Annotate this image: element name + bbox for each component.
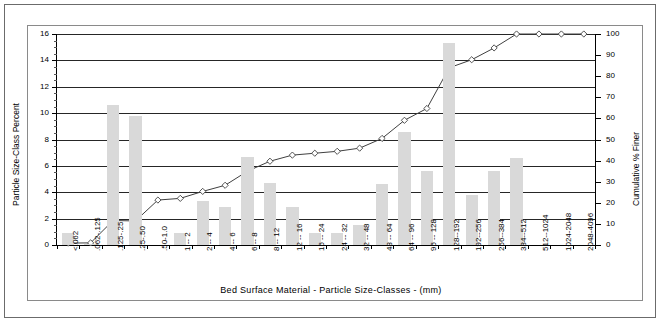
x-axis-tick-label: 24 -- 32: [341, 223, 349, 251]
x-axis-tick-label: .50-1.0: [161, 226, 169, 251]
x-axis-tick-label: 8 -- 12: [273, 228, 281, 251]
y-axis-left-minor-tick: [54, 47, 57, 48]
y-axis-left-tick: [52, 87, 57, 88]
x-axis-tick-label: 1024-2048: [565, 213, 573, 251]
y-axis-right-tick-label: 50: [606, 136, 632, 144]
y-axis-left-tick-label: 0: [23, 241, 49, 249]
y-axis-left-tick-label: 14: [23, 56, 49, 64]
y-axis-right-tick-label: 30: [606, 178, 632, 186]
x-axis-tick-label: 512--1024: [542, 215, 550, 251]
y-axis-left-tick-label: 2: [23, 215, 49, 223]
y-axis-right-tick: [596, 140, 601, 141]
y-axis-left-minor-tick: [54, 186, 57, 187]
x-axis-tick-label: 2048-4096: [587, 213, 595, 251]
x-axis-title-text: Bed Surface Material - Particle Size-Cla…: [220, 285, 441, 295]
x-axis-tick-label: 1 -- 2: [184, 232, 192, 251]
bar: [443, 43, 455, 245]
y-axis-right-tick-label: 40: [606, 157, 632, 165]
y-axis-left-minor-tick: [54, 146, 57, 147]
y-axis-left-title-text: Particle Size-Class Percent: [11, 194, 22, 206]
x-axis-tick-label: 12 -- 16: [296, 223, 304, 251]
y-axis-right-tick: [596, 224, 601, 225]
y-axis-right-tick: [596, 161, 601, 162]
y-axis-right-tick: [596, 203, 601, 204]
y-axis-left-minor-tick: [54, 199, 57, 200]
y-axis-right-tick-label: 20: [606, 199, 632, 207]
y-axis-left-tick-label: 10: [23, 109, 49, 117]
y-axis-right-tick: [596, 55, 601, 56]
y-axis-left-minor-tick: [54, 153, 57, 154]
y-axis-left-minor-tick: [54, 225, 57, 226]
y-axis-left-tick: [52, 219, 57, 220]
x-axis-tick: [550, 245, 551, 249]
y-axis-left-minor-tick: [54, 67, 57, 68]
x-axis-tick: [169, 245, 170, 249]
x-axis-tick-label: 4 -- 6: [229, 232, 237, 251]
y-axis-left-minor-tick: [54, 133, 57, 134]
x-axis-tick: [57, 245, 58, 249]
y-axis-right-tick-label: 80: [606, 72, 632, 80]
y-axis-left-tick: [52, 140, 57, 141]
x-axis-tick-label: <.062: [72, 231, 80, 251]
y-axis-right-tick: [596, 34, 601, 35]
y-axis-left-minor-tick: [54, 41, 57, 42]
x-axis-tick: [214, 245, 215, 249]
x-axis-title: Bed Surface Material - Particle Size-Cla…: [0, 285, 662, 295]
y-axis-right-tick: [596, 118, 601, 119]
y-axis-left-minor-tick: [54, 107, 57, 108]
y-axis-right-tick-label: 0: [606, 241, 632, 249]
y-axis-left-minor-tick: [54, 93, 57, 94]
x-axis-tick: [326, 245, 327, 249]
y-axis-left-tick-label: 4: [23, 188, 49, 196]
y-axis-right-tick: [596, 245, 601, 246]
x-axis-tick-label: 32 -- 48: [363, 223, 371, 251]
y-axis-left-minor-tick: [54, 54, 57, 55]
x-axis-tick-label: .25-.50: [139, 226, 147, 251]
x-axis-tick-label: 16 -- 24: [318, 223, 326, 251]
x-axis-tick-label: .125-.25: [117, 222, 125, 251]
x-axis-tick: [595, 245, 596, 249]
x-axis-tick-label: 64 -- 96: [408, 223, 416, 251]
x-axis-tick: [483, 245, 484, 249]
y-axis-left-title: Particle Size-Class Percent: [11, 86, 23, 206]
y-axis-left-tick-label: 8: [23, 136, 49, 144]
y-axis-left-minor-tick: [54, 80, 57, 81]
x-axis-tick-label: 384--512: [520, 219, 528, 251]
y-axis-left-minor-tick: [54, 179, 57, 180]
y-axis-right-tick: [596, 182, 601, 183]
y-axis-left-tick: [52, 60, 57, 61]
y-axis-right-tick-label: 60: [606, 114, 632, 122]
x-axis-tick-label: .062-.125: [94, 217, 102, 251]
gridline: [57, 34, 595, 35]
y-axis-left-tick: [52, 166, 57, 167]
y-axis-left-tick: [52, 113, 57, 114]
gridline: [57, 87, 595, 88]
y-axis-right-tick-label: 100: [606, 30, 632, 38]
gridline: [57, 113, 595, 114]
x-axis-tick-label: 256--384: [498, 219, 506, 251]
y-axis-left-tick-label: 16: [23, 30, 49, 38]
y-axis-right-tick-label: 70: [606, 93, 632, 101]
y-axis-left-minor-tick: [54, 74, 57, 75]
y-axis-right-title-text: Cumulative % Finer: [631, 194, 642, 206]
y-axis-left-tick: [52, 192, 57, 193]
y-axis-right-title: Cumulative % Finer: [631, 96, 643, 206]
x-axis-tick-label: 96 -- 128: [430, 219, 438, 251]
y-axis-left-tick-label: 6: [23, 162, 49, 170]
x-axis-tick: [281, 245, 282, 249]
y-axis-left-tick: [52, 34, 57, 35]
y-axis-right-tick-label: 10: [606, 220, 632, 228]
y-axis-left-minor-tick: [54, 172, 57, 173]
y-axis-right-tick: [596, 97, 601, 98]
y-axis-right-tick-label: 90: [606, 51, 632, 59]
y-axis-left-minor-tick: [54, 212, 57, 213]
y-axis-left-minor-tick: [54, 232, 57, 233]
x-axis-tick: [438, 245, 439, 249]
y-axis-left-minor-tick: [54, 159, 57, 160]
y-axis-left-minor-tick: [54, 205, 57, 206]
y-axis-left-minor-tick: [54, 126, 57, 127]
x-axis-tick-label: 128--192: [453, 219, 461, 251]
x-axis-tick-label: 2 -- 4: [206, 232, 214, 251]
y-axis-right-tick: [596, 76, 601, 77]
y-axis-left-minor-tick: [54, 238, 57, 239]
